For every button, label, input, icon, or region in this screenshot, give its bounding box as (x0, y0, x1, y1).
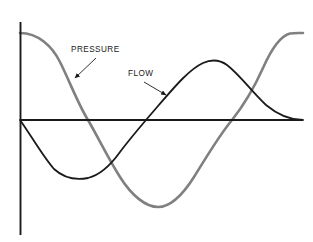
pressure-series-label: PRESSURE (71, 45, 120, 55)
pressure-leader-arrow (75, 58, 96, 78)
flow-series-label: FLOW (128, 69, 153, 79)
flow-leader-arrow (144, 82, 166, 95)
waveform-figure: PRESSURE FLOW (0, 0, 313, 242)
plot-canvas (0, 0, 313, 242)
